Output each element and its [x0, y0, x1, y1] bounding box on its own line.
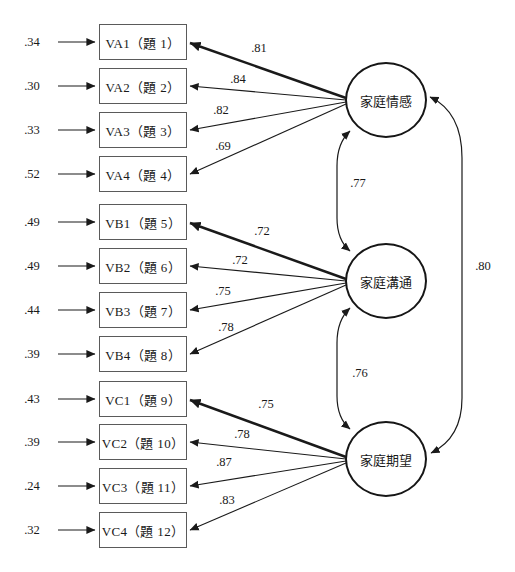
loading-label-va4: .69 [215, 139, 231, 154]
indicator-box-vc2: VC2（題 10） [99, 424, 187, 460]
nodes-layer: .34 .30 .33 .52 .49 .49 .44 .39 .43 .39 … [0, 0, 515, 572]
error-value-va4: .52 [12, 166, 52, 182]
loading-label-vc3: .87 [216, 455, 232, 470]
correlation-label-communication-expectation: .76 [352, 366, 368, 381]
loading-label-vb4: .78 [218, 320, 234, 335]
error-value-vc2: .39 [12, 434, 52, 450]
error-value-vb3: .44 [12, 302, 52, 318]
indicator-box-vc3: VC3（題 11） [99, 468, 187, 504]
latent-circle-family-affection: 家庭情感 [345, 62, 427, 138]
indicator-box-vb1: VB1（題 5） [99, 204, 187, 240]
indicator-box-vb4: VB4（題 8） [99, 336, 187, 372]
latent-circle-family-expectation: 家庭期望 [345, 421, 427, 497]
error-value-va2: .30 [12, 78, 52, 94]
loading-label-va1: .81 [251, 41, 267, 56]
error-value-vb2: .49 [12, 258, 52, 274]
indicator-box-va1: VA1（題 1） [99, 24, 187, 60]
correlation-label-affection-communication: .77 [350, 176, 366, 191]
indicator-box-vc1: VC1（題 9） [99, 381, 187, 417]
error-value-vb1: .49 [12, 214, 52, 230]
loading-label-vb3: .75 [215, 284, 231, 299]
loading-label-vc4: .83 [219, 493, 235, 508]
error-value-va1: .34 [12, 34, 52, 50]
loading-label-vb2: .72 [232, 253, 248, 268]
indicator-box-va3: VA3（題 3） [99, 112, 187, 148]
error-value-vc3: .24 [12, 478, 52, 494]
correlation-label-affection-expectation: .80 [475, 259, 491, 274]
indicator-box-va4: VA4（題 4） [99, 156, 187, 192]
loading-label-vb1: .72 [254, 224, 270, 239]
indicator-box-vc4: VC4（題 12） [99, 512, 187, 548]
error-value-vc1: .43 [12, 391, 52, 407]
error-value-vb4: .39 [12, 346, 52, 362]
latent-circle-family-communication: 家庭溝通 [345, 243, 427, 319]
indicator-box-va2: VA2（題 2） [99, 68, 187, 104]
loading-label-va3: .82 [213, 103, 229, 118]
error-value-va3: .33 [12, 122, 52, 138]
sem-path-diagram: .34 .30 .33 .52 .49 .49 .44 .39 .43 .39 … [0, 0, 515, 572]
indicator-box-vb2: VB2（題 6） [99, 248, 187, 284]
indicator-box-vb3: VB3（題 7） [99, 292, 187, 328]
error-value-vc4: .32 [12, 522, 52, 538]
loading-label-va2: .84 [230, 72, 246, 87]
loading-label-vc1: .75 [258, 397, 274, 412]
loading-label-vc2: .78 [234, 427, 250, 442]
